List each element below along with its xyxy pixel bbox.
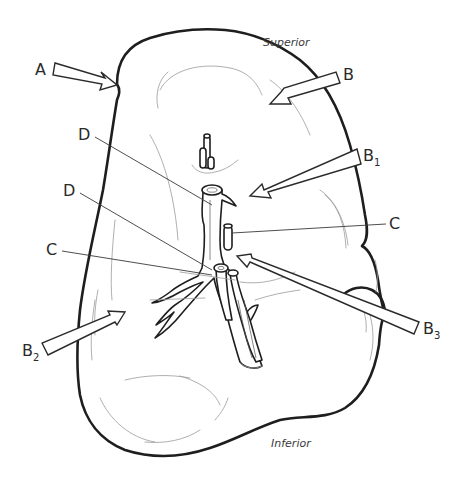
leader-d-upper: [95, 137, 212, 205]
label-b2: B2: [22, 341, 39, 363]
surface-contours: [91, 66, 377, 442]
label-c-right: C: [389, 214, 400, 233]
arrow-a: [53, 63, 117, 90]
label-d-lower: D: [63, 181, 75, 200]
label-b: B: [343, 65, 354, 84]
pointer-b3: B3: [237, 254, 440, 341]
pointer-d-lower: D: [63, 181, 212, 270]
arrow-b3: [237, 254, 419, 334]
spleen-diagram: A B B1 B2 B3 D D C C Superior Inferio: [0, 0, 462, 485]
upper-vessel-stumps: [192, 134, 238, 173]
label-a: A: [35, 60, 46, 79]
pointer-a: A: [35, 60, 117, 90]
leader-c-right: [232, 224, 386, 233]
label-b1: B1: [363, 146, 380, 168]
label-d-upper: D: [78, 125, 90, 144]
leader-c-left: [62, 251, 212, 275]
orientation-inferior: Inferior: [271, 437, 312, 450]
splenic-vessels: [150, 185, 300, 368]
arrow-b: [270, 72, 340, 104]
pointer-b2: B2: [22, 311, 125, 363]
label-b3: B3: [423, 319, 440, 341]
arrow-b2: [42, 311, 125, 355]
leader-d-lower: [80, 193, 212, 270]
pointer-c-left: C: [46, 240, 212, 275]
orientation-superior: Superior: [263, 36, 311, 49]
pointer-c-right: C: [232, 214, 400, 233]
label-c-left: C: [46, 240, 57, 259]
arrow-b1: [250, 149, 361, 198]
